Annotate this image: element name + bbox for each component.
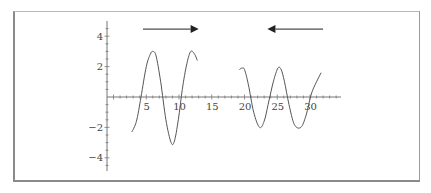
x-tick-label: 5 xyxy=(144,101,150,112)
y-tick-label: 2 xyxy=(97,61,103,72)
y-tick-label: 4 xyxy=(97,31,103,42)
y-tick-label: −2 xyxy=(88,122,103,133)
x-tick-label: 15 xyxy=(206,101,219,112)
arrow-left-icon xyxy=(267,25,323,33)
direction-arrows xyxy=(143,25,323,33)
right-curve xyxy=(239,67,321,128)
y-tick-label: −4 xyxy=(88,152,103,163)
arrow-right-icon xyxy=(143,25,199,33)
x-tick-label: 30 xyxy=(304,101,317,112)
x-tick-label: 20 xyxy=(239,101,252,112)
arrow-head xyxy=(267,25,275,33)
data-series xyxy=(132,51,321,145)
left-curve xyxy=(132,51,198,145)
line-chart: 51015202530−4−224 xyxy=(0,0,431,193)
x-tick-label: 25 xyxy=(271,101,284,112)
arrow-head xyxy=(191,25,199,33)
axes xyxy=(107,21,341,171)
